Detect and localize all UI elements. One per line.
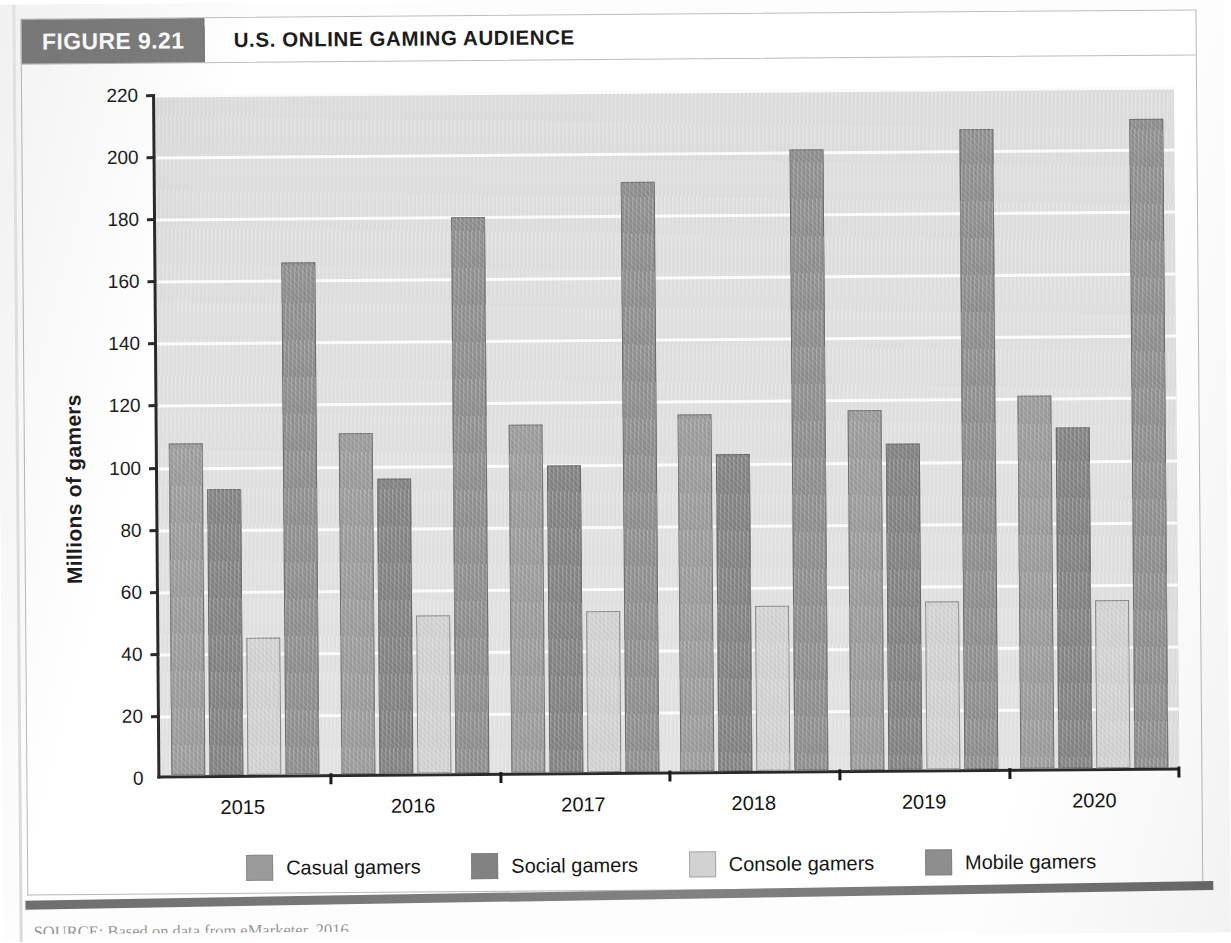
figure-number-badge: FIGURE 9.21 [21, 18, 204, 63]
bar-group-2020 [1004, 88, 1179, 769]
legend-swatch-casual-gamers [246, 855, 273, 881]
legend-label-console-gamers: Console gamers [729, 851, 875, 875]
y-tick-label-40: 40 [78, 644, 142, 667]
legend-swatch-console-gamers [689, 851, 716, 877]
bar-console-gamers-2015 [246, 638, 281, 775]
bar-mobile-gamers-2015 [281, 262, 319, 775]
bar-casual-gamers-2019 [848, 410, 885, 770]
x-tick-mark-2019 [839, 769, 842, 780]
bar-social-gamers-2018 [716, 454, 752, 771]
legend-item-mobile-gamers[interactable]: Mobile gamers [925, 848, 1096, 875]
legend-label-casual-gamers: Casual gamers [286, 855, 421, 879]
bar-mobile-gamers-2020 [1129, 119, 1168, 768]
legend-label-social-gamers: Social gamers [511, 853, 638, 877]
y-tick-label-160: 160 [75, 271, 139, 294]
y-tick-mark-140 [148, 342, 157, 345]
y-tick-label-180: 180 [75, 209, 139, 232]
y-tick-mark-100 [149, 467, 158, 470]
bar-social-gamers-2019 [886, 444, 923, 770]
bar-social-gamers-2017 [547, 465, 583, 773]
bar-groups [155, 88, 1179, 776]
legend-item-casual-gamers[interactable]: Casual gamers [246, 854, 421, 881]
bar-casual-gamers-2018 [678, 414, 715, 771]
y-tick-label-220: 220 [74, 85, 138, 108]
y-tick-mark-180 [147, 218, 156, 221]
y-tick-mark-60 [150, 591, 159, 594]
x-axis-label-2018: 2018 [668, 781, 839, 830]
y-tick-label-80: 80 [77, 519, 141, 542]
x-axis-label-2016: 2016 [328, 784, 499, 833]
bar-console-gamers-2016 [416, 615, 451, 774]
legend-item-social-gamers[interactable]: Social gamers [471, 852, 638, 879]
y-tick-mark-220 [146, 94, 155, 97]
x-axis-tick-labels: 201520162017201820192020 [157, 779, 1179, 835]
y-tick-label-60: 60 [78, 581, 142, 604]
bar-group-2019 [834, 89, 1009, 770]
y-tick-label-20: 20 [79, 706, 143, 729]
source-note: SOURCE: Based on data from eMarketer, 20… [34, 920, 353, 943]
bar-casual-gamers-2015 [169, 443, 206, 775]
legend-label-mobile-gamers: Mobile gamers [965, 850, 1096, 874]
bar-mobile-gamers-2018 [790, 149, 829, 770]
bar-console-gamers-2018 [755, 606, 790, 771]
bar-casual-gamers-2017 [508, 425, 545, 773]
bar-casual-gamers-2016 [338, 432, 375, 774]
bar-console-gamers-2020 [1095, 600, 1130, 768]
plot-area [152, 88, 1179, 779]
bar-mobile-gamers-2019 [960, 129, 999, 769]
x-axis-label-2020: 2020 [1009, 779, 1180, 828]
y-axis-title: Millions of gamers [61, 394, 86, 584]
x-axis-label-2019: 2019 [839, 780, 1010, 829]
bar-casual-gamers-2020 [1017, 396, 1054, 769]
y-tick-label-200: 200 [74, 147, 138, 170]
legend-item-console-gamers[interactable]: Console gamers [689, 850, 875, 877]
y-tick-label-100: 100 [77, 457, 141, 480]
y-tick-label-120: 120 [76, 395, 140, 418]
y-tick-label-0: 0 [79, 768, 143, 791]
bar-mobile-gamers-2017 [620, 182, 659, 772]
y-tick-mark-80 [149, 529, 158, 532]
y-tick-mark-120 [148, 405, 157, 408]
bar-console-gamers-2017 [586, 611, 621, 773]
y-tick-mark-40 [150, 653, 159, 656]
x-tick-mark-2016 [329, 773, 332, 784]
bar-group-2018 [665, 90, 840, 771]
x-axis-label-2015: 2015 [157, 785, 328, 834]
bar-group-2016 [325, 93, 500, 774]
bar-group-2015 [155, 94, 330, 775]
y-tick-label-140: 140 [76, 333, 140, 356]
y-tick-mark-200 [147, 156, 156, 159]
x-axis-label-2017: 2017 [498, 783, 669, 832]
legend-swatch-social-gamers [471, 853, 498, 879]
legend-swatch-mobile-gamers [925, 849, 952, 875]
x-tick-mark-end [1177, 767, 1180, 778]
x-tick-mark-2020 [1009, 768, 1012, 779]
bar-social-gamers-2016 [377, 479, 413, 774]
scanned-page: FIGURE 9.21 U.S. ONLINE GAMING AUDIENCE … [0, 0, 1231, 942]
y-tick-mark-160 [148, 280, 157, 283]
bar-social-gamers-2015 [207, 489, 243, 775]
bar-social-gamers-2020 [1056, 427, 1093, 769]
bar-mobile-gamers-2016 [451, 217, 489, 773]
bar-console-gamers-2019 [925, 602, 960, 770]
bar-group-2017 [495, 92, 670, 773]
x-tick-mark-2017 [499, 772, 502, 783]
figure-title: U.S. ONLINE GAMING AUDIENCE [204, 10, 1195, 62]
x-tick-mark-2018 [669, 771, 672, 782]
y-tick-mark-20 [151, 715, 160, 718]
chart-area: Millions of gamers 020406080100120140160… [21, 55, 1203, 895]
